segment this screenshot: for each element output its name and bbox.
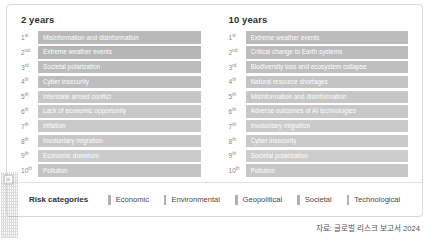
risk-row[interactable]: 6th Lack of economic opportunity	[19, 105, 201, 118]
risk-categories-legend: Risk categories Economic Environmental G…	[7, 182, 422, 216]
risk-label: Lack of economic opportunity	[43, 107, 126, 115]
risk-bar[interactable]: Misinformation and disinformation	[38, 31, 201, 43]
risk-bar[interactable]: Misinformation and disinformation	[246, 91, 409, 103]
risk-rank: 1st	[19, 33, 38, 42]
legend-label: Technological	[354, 195, 400, 205]
legend-swatch-icon	[235, 195, 238, 205]
risk-bar[interactable]: Critical change to Earth systems	[246, 46, 409, 58]
risk-bar[interactable]: Societal polarization	[246, 150, 409, 162]
risk-bar[interactable]: Interstate armed conflict	[38, 91, 201, 103]
risk-rank: 4th	[227, 77, 246, 86]
legend-label: Societal	[305, 195, 332, 205]
risk-label: Economic downturn	[43, 152, 99, 160]
risk-bar[interactable]: Biodiversity loss and ecosystem collapse	[246, 61, 409, 73]
risk-rank: 3rd	[19, 63, 38, 72]
risk-label: Misinformation and disinformation	[251, 93, 347, 101]
risk-rank: 8th	[227, 137, 246, 146]
risk-label: Cyber insecurity	[251, 137, 297, 145]
legend-label: Economic	[116, 195, 149, 205]
legend-item-geopolitical[interactable]: Geopolitical	[235, 195, 282, 205]
risk-rank: 7th	[227, 122, 246, 131]
risk-row[interactable]: 4th Cyber insecurity	[19, 75, 201, 88]
risk-rank: 10th	[19, 166, 38, 175]
risk-rank: 10th	[227, 166, 246, 175]
legend-swatch-icon	[164, 195, 167, 205]
legend-item-economic[interactable]: Economic	[108, 195, 149, 205]
risk-bar[interactable]: Societal polarization	[38, 61, 201, 73]
risk-rank: 5th	[19, 92, 38, 101]
risk-list-2-years: 1st Misinformation and disinformation 2n…	[19, 31, 201, 177]
risk-rank: 1st	[227, 33, 246, 42]
risk-row[interactable]: 1st Extreme weather events	[227, 31, 409, 44]
legend-label: Geopolitical	[243, 195, 283, 205]
risk-row[interactable]: 2nd Critical change to Earth systems	[227, 46, 409, 59]
risk-row[interactable]: 10th Pollution	[227, 164, 409, 177]
risk-row[interactable]: 9th Societal polarization	[227, 149, 409, 162]
risk-label: Interstate armed conflict	[43, 93, 111, 101]
risk-label: Critical change to Earth systems	[251, 48, 343, 56]
legend-item-societal[interactable]: Societal	[297, 195, 332, 205]
risk-bar[interactable]: Involuntary migration	[38, 135, 201, 147]
qr-code-watermark	[1, 172, 18, 238]
risk-bar[interactable]: Cyber insecurity	[246, 135, 409, 147]
risk-list-10-years: 1st Extreme weather events 2nd Critical …	[227, 31, 409, 177]
risk-bar[interactable]: Lack of economic opportunity	[38, 105, 201, 117]
column-title-2-years: 2 years	[21, 14, 201, 26]
risk-rank: 9th	[19, 151, 38, 160]
risk-row[interactable]: 7th Inflation	[19, 120, 201, 133]
risk-label: Pollution	[251, 167, 276, 175]
risk-bar[interactable]: Involuntary migration	[246, 120, 409, 132]
risk-label: Societal polarization	[251, 152, 308, 160]
risk-label: Biodiversity loss and ecosystem collapse	[251, 63, 367, 71]
column-2-years: 2 years 1st Misinformation and disinform…	[7, 5, 215, 183]
risk-row[interactable]: 6th Adverse outcomes of AI technologies	[227, 105, 409, 118]
legend-swatch-icon	[347, 195, 350, 205]
risk-rank: 9th	[227, 151, 246, 160]
legend-item-environmental[interactable]: Environmental	[164, 195, 220, 205]
risk-bar[interactable]: Adverse outcomes of AI technologies	[246, 105, 409, 117]
risk-rank: 2nd	[19, 48, 38, 57]
risk-label: Natural resource shortages	[251, 78, 328, 86]
risk-bar[interactable]: Inflation	[38, 120, 201, 132]
risk-bar[interactable]: Extreme weather events	[246, 31, 409, 43]
risk-label: Cyber insecurity	[43, 78, 89, 86]
risk-rank: 6th	[227, 107, 246, 116]
risk-rank: 5th	[227, 92, 246, 101]
risk-row[interactable]: 8th Cyber insecurity	[227, 134, 409, 147]
risk-row[interactable]: 2nd Extreme weather events	[19, 46, 201, 59]
risk-bar[interactable]: Pollution	[246, 164, 409, 176]
risk-bar[interactable]: Natural resource shortages	[246, 76, 409, 88]
risk-row[interactable]: 5th Misinformation and disinformation	[227, 90, 409, 103]
risk-label: Pollution	[43, 167, 68, 175]
risk-row[interactable]: 9th Economic downturn	[19, 149, 201, 162]
legend-swatch-icon	[108, 195, 111, 205]
risk-bar[interactable]: Cyber insecurity	[38, 76, 201, 88]
risk-bar[interactable]: Economic downturn	[38, 150, 201, 162]
legend-swatch-icon	[297, 195, 300, 205]
risk-label: Extreme weather events	[251, 34, 320, 42]
risk-row[interactable]: 5th Interstate armed conflict	[19, 90, 201, 103]
legend-title: Risk categories	[29, 195, 88, 204]
risk-row[interactable]: 3rd Societal polarization	[19, 61, 201, 74]
column-title-10-years: 10 years	[229, 14, 409, 26]
risk-bar[interactable]: Pollution	[38, 164, 201, 176]
qr-code-finder-icon	[3, 174, 14, 185]
risk-bar[interactable]: Extreme weather events	[38, 46, 201, 58]
column-10-years: 10 years 1st Extreme weather events 2nd …	[215, 5, 423, 183]
risk-label: Extreme weather events	[43, 48, 112, 56]
risk-rank: 6th	[19, 107, 38, 116]
risk-row[interactable]: 7th Involuntary migration	[227, 120, 409, 133]
legend-item-technological[interactable]: Technological	[347, 195, 401, 205]
risk-label: Involuntary migration	[43, 137, 103, 145]
risk-rank: 7th	[19, 122, 38, 131]
risk-row[interactable]: 8th Involuntary migration	[19, 134, 201, 147]
risk-rank: 3rd	[227, 63, 246, 72]
risk-label: Societal polarization	[43, 63, 100, 71]
risk-row[interactable]: 10th Pollution	[19, 164, 201, 177]
risk-label: Misinformation and disinformation	[43, 34, 139, 42]
risk-row[interactable]: 1st Misinformation and disinformation	[19, 31, 201, 44]
risk-rank: 4th	[19, 77, 38, 86]
risk-label: Inflation	[43, 122, 66, 130]
risk-row[interactable]: 4th Natural resource shortages	[227, 75, 409, 88]
risk-row[interactable]: 3rd Biodiversity loss and ecosystem coll…	[227, 61, 409, 74]
